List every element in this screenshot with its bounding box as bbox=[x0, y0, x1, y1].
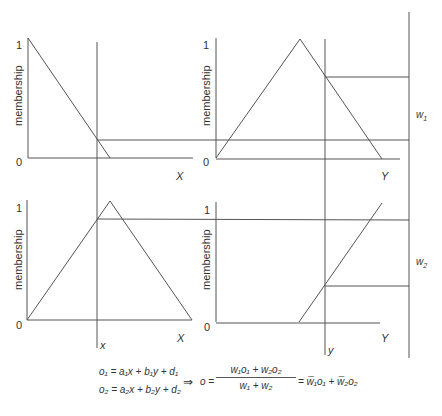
fuzzy-inference-diagram bbox=[0, 0, 442, 416]
equation-o2: o₂ = a₂x + b₂y + d₂ bbox=[99, 384, 181, 395]
br-membership-curve bbox=[299, 203, 382, 322]
weight-w2-label: w2 bbox=[416, 257, 427, 269]
br-tick-0: 0 bbox=[204, 322, 210, 333]
bl-tick-1: 1 bbox=[16, 203, 22, 214]
input-y-label: y bbox=[328, 345, 334, 356]
w2-sub: 2 bbox=[423, 262, 427, 269]
rule2-x-level bbox=[97, 219, 409, 220]
br-xlabel: Y bbox=[381, 333, 388, 344]
br-ylabel: membership bbox=[200, 229, 212, 290]
tr-tick-0: 0 bbox=[203, 157, 209, 168]
equation-o-lhs: o = bbox=[200, 376, 214, 387]
bl-ylabel: membership bbox=[12, 229, 24, 290]
tl-xlabel: X bbox=[176, 171, 183, 182]
tr-membership-curve bbox=[216, 39, 382, 159]
implies-arrow: ⇒ bbox=[183, 375, 193, 389]
tr-xlabel: Y bbox=[381, 171, 388, 182]
equation-fraction: w₁o₁ + w₂o₂ w₁ + w₂ bbox=[216, 364, 296, 391]
tl-tick-0: 0 bbox=[16, 157, 22, 168]
bl-tick-0: 0 bbox=[16, 320, 22, 331]
equation-rhs: = w̅₁o₁ + w̅₂o₂ bbox=[298, 376, 358, 387]
weight-w1-label: w1 bbox=[416, 110, 427, 122]
tl-ylabel: membership bbox=[12, 65, 24, 126]
input-x-label: x bbox=[100, 340, 106, 351]
bl-xlabel: X bbox=[177, 333, 184, 344]
br-tick-1: 1 bbox=[204, 205, 210, 216]
fraction-denominator: w₁ + w₂ bbox=[216, 378, 296, 391]
tr-ylabel: membership bbox=[200, 65, 212, 126]
tl-tick-1: 1 bbox=[16, 40, 22, 51]
equation-o1: o₁ = a₁x + b₁y + d₁ bbox=[99, 366, 178, 377]
w1-sub: 1 bbox=[423, 115, 427, 122]
fraction-numerator: w₁o₁ + w₂o₂ bbox=[216, 364, 296, 378]
tr-tick-1: 1 bbox=[203, 40, 209, 51]
